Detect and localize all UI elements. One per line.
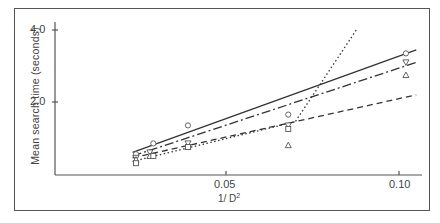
circle-marker [286, 112, 291, 117]
fit-lines [133, 28, 417, 161]
inverted-triangle-fit-line [133, 62, 417, 156]
square-marker [134, 161, 139, 166]
square-marker [151, 154, 156, 159]
triangle-marker [403, 72, 409, 78]
circle-marker [151, 141, 156, 146]
axes [52, 22, 422, 175]
triangle-marker [285, 142, 291, 148]
circle-marker [185, 123, 190, 128]
circle-fit-line [133, 50, 417, 153]
square-fit-line [133, 28, 358, 161]
plot-area [0, 0, 440, 223]
circle-marker [403, 51, 408, 56]
square-marker [286, 127, 291, 132]
square-marker [185, 145, 190, 150]
triangle-fit-line [133, 95, 417, 158]
